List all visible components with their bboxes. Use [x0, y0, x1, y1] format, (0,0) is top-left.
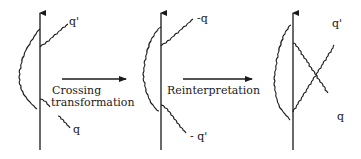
label-minus-q-prime: - q' [190, 130, 207, 143]
label-q-prime-out: q' [69, 15, 79, 28]
incoming-wavy-stub [40, 99, 50, 107]
crossing-diagram: q' q Crossing transformation -q - q' Rei… [0, 0, 361, 159]
exchange-wavy-arc [143, 27, 161, 111]
outgoing-wavy-line-q-prime [293, 45, 334, 112]
panel-crossed: -q - q' [143, 12, 208, 150]
transition-crossing: Crossing transformation [51, 79, 135, 109]
outgoing-wavy-line [40, 24, 68, 47]
outgoing-wavy-line [161, 19, 193, 46]
panel-reinterpreted: q q' [274, 13, 344, 150]
label-q-prime: q' [332, 17, 342, 30]
label-q: q [337, 110, 344, 123]
incoming-wavy-line [58, 116, 70, 128]
exchange-wavy-arc [19, 29, 40, 109]
transition-reinterpretation: Reinterpretation [167, 79, 260, 97]
transition-label-line1: Reinterpretation [167, 84, 260, 97]
exchange-wavy-arc [274, 25, 291, 120]
outgoing-wavy-line-lower [161, 105, 186, 133]
panel-initial: q' q [19, 13, 80, 150]
label-minus-q: -q [197, 12, 208, 25]
label-q-in: q [73, 123, 80, 136]
outgoing-wavy-line-q [293, 43, 328, 93]
transition-label-line2: transformation [51, 96, 135, 109]
